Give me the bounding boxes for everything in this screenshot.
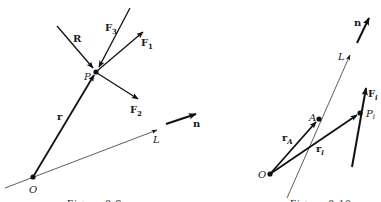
label-L: L [152,134,160,145]
caption-figure-8-10: Figure 8.10 [290,197,352,202]
label-n-2: n [354,17,362,28]
label-F1: F1 [141,37,153,51]
vector-F2 [97,73,138,99]
label-O-2: O [258,169,266,180]
label-O: O [29,184,37,195]
vector-Fi [352,88,366,167]
point-Pi [357,110,362,115]
vector-F3 [99,8,130,67]
vector-F1 [97,32,143,71]
figure-8-9: O P r R F3 F1 F2 L n Figure 8.9 [5,8,201,202]
label-F2: F2 [130,104,142,118]
label-R: R [73,33,82,44]
line-L [5,130,157,188]
point-P [93,69,98,74]
label-F3: F3 [105,22,117,36]
point-A [316,116,321,121]
vector-n [166,114,196,124]
diagram-canvas: O P r R F3 F1 F2 L n Figure 8.9 O A Pi r… [0,0,381,202]
label-ri: ri [316,143,324,157]
figure-8-10: O A Pi rA ri Fi L n Figure 8.10 [258,17,378,202]
label-Fi: Fi [368,88,378,102]
label-rA: rA [282,132,293,146]
label-r: r [57,111,63,122]
label-Pi: Pi [365,108,375,121]
vector-r [33,75,94,177]
caption-figure-8-9: Figure 8.9 [67,197,122,202]
point-O-2 [267,171,272,176]
point-O [30,174,35,179]
label-P: P [83,71,91,82]
label-n: n [193,118,201,129]
label-A: A [308,112,316,123]
label-L-2: L [337,51,345,62]
